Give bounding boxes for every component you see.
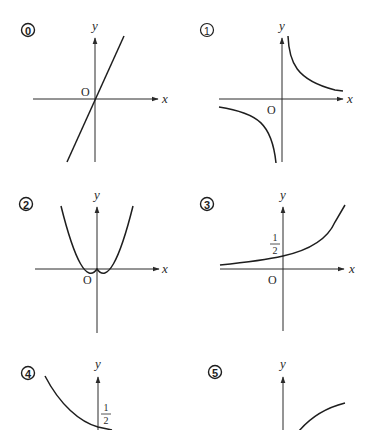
choice-marker-4: 4 (22, 367, 35, 380)
choice-label: 3 (204, 199, 210, 211)
choice-marker-2: 2 (20, 198, 33, 211)
graph-2: 2 y x O (20, 187, 169, 333)
x-axis-label: x (161, 91, 168, 106)
fraction-numerator: 1 (104, 402, 109, 413)
hyperbola-branch-right (288, 36, 343, 91)
choice-label: 4 (25, 368, 32, 380)
graph-3: 3 y x O 1 2 (201, 187, 356, 331)
origin-label: O (83, 273, 92, 287)
choice-marker-1: 1 (201, 24, 214, 37)
x-axis-label: x (348, 261, 355, 276)
decreasing-curve (45, 376, 112, 430)
x-axis-label: x (161, 261, 168, 276)
graph-0: 0 y x O (22, 18, 169, 162)
choice-marker-3: 3 (201, 198, 214, 211)
y-axis-label: y (278, 187, 286, 202)
choice-label: 0 (25, 25, 31, 37)
graph-5: 5 y (209, 356, 346, 430)
log-curve (299, 403, 345, 430)
y-axis-label: y (277, 18, 285, 33)
origin-label: O (268, 273, 277, 287)
function-graphs-figure: 0 y x O 1 y x O 2 y x O (0, 0, 374, 430)
y-intercept-label: 1 2 (270, 232, 280, 256)
fraction-denominator: 2 (273, 245, 278, 256)
choice-label: 1 (204, 25, 210, 37)
fraction-denominator: 2 (104, 415, 109, 426)
choice-marker-5: 5 (209, 366, 222, 379)
y-axis-label: y (90, 18, 98, 33)
graph-4: 4 y 1 2 (22, 356, 113, 430)
x-axis-label: x (346, 91, 353, 106)
fraction-numerator: 1 (273, 232, 278, 243)
y-intercept-label: 1 2 (101, 402, 111, 426)
origin-label: O (267, 103, 276, 117)
y-axis-label: y (278, 356, 286, 371)
y-axis-label: y (93, 356, 101, 371)
choice-label: 2 (23, 199, 29, 211)
graph-1: 1 y x O (201, 18, 354, 163)
choice-marker-0: 0 (22, 24, 35, 37)
choice-label: 5 (212, 367, 218, 379)
y-axis-label: y (92, 187, 100, 202)
origin-label: O (81, 85, 90, 99)
